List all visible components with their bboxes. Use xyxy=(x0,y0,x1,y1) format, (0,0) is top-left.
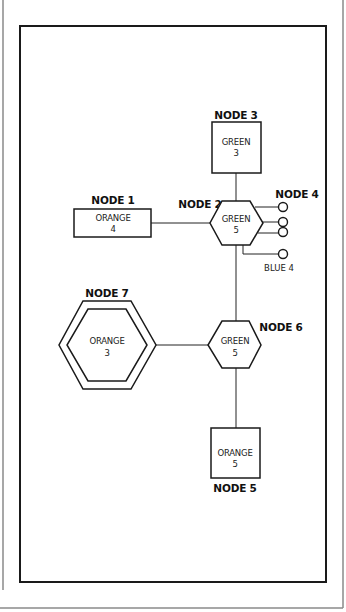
node-2-value: 5 xyxy=(233,225,238,235)
node-1-label: NODE 1 xyxy=(91,194,134,206)
node-5[interactable]: ORANGE 5 NODE 5 xyxy=(211,428,260,494)
node-7-color: ORANGE xyxy=(89,336,124,346)
node-2-color: GREEN xyxy=(222,214,251,224)
network-diagram: NODE 3 GREEN 3 NODE 1 ORANGE 4 NODE 2 GR… xyxy=(0,0,346,612)
node-5-value: 5 xyxy=(232,459,237,469)
diagram-frame xyxy=(20,26,326,582)
node-4-port-circle[interactable] xyxy=(279,228,288,237)
node-2-label: NODE 2 xyxy=(178,198,221,210)
node-4-label: NODE 4 xyxy=(275,188,318,200)
node-6-label: NODE 6 xyxy=(259,321,302,333)
node-7-label: NODE 7 xyxy=(85,287,128,299)
node-1-color: ORANGE xyxy=(95,213,130,223)
node-3-label: NODE 3 xyxy=(214,109,257,121)
node-6-color: GREEN xyxy=(221,336,250,346)
node-4-port-circle[interactable] xyxy=(279,218,288,227)
node-6-value: 5 xyxy=(232,348,237,358)
node-1-value: 4 xyxy=(110,224,115,234)
blue-4-label: BLUE 4 xyxy=(264,263,294,273)
blue-4-port-circle[interactable] xyxy=(279,250,288,259)
node-7-value: 3 xyxy=(104,348,109,358)
node-4-port-circle[interactable] xyxy=(279,203,288,212)
node-3[interactable]: NODE 3 GREEN 3 xyxy=(212,109,261,173)
node-3-value: 3 xyxy=(233,148,238,158)
node-5-label: NODE 5 xyxy=(213,482,256,494)
node-3-color: GREEN xyxy=(222,137,251,147)
node-5-color: ORANGE xyxy=(217,448,252,458)
